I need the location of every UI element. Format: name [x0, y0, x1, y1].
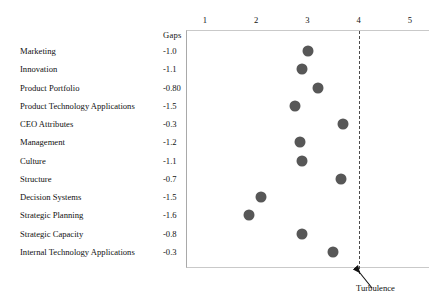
row-label: Product Portfolio	[20, 83, 79, 93]
row-label: Innovation	[20, 64, 57, 74]
row-gap-value: -1.1	[163, 156, 189, 166]
row-label: Structure	[20, 174, 52, 184]
row-label: Management	[20, 137, 65, 147]
gap-analysis-chart: Gaps 12345 Marketing-1.0Innovation-1.1Pr…	[0, 0, 430, 308]
row-gap-value: -0.3	[163, 247, 189, 257]
row-gap-value: -1.5	[163, 192, 189, 202]
data-point	[312, 82, 323, 93]
x-tick-1: 1	[203, 15, 207, 25]
row-label: Product Technology Applications	[20, 101, 135, 111]
row-label: Marketing	[20, 46, 56, 56]
x-tick-4: 4	[357, 15, 361, 25]
row-gap-value: -1.1	[163, 64, 189, 74]
row-gap-value: -1.0	[163, 46, 189, 56]
row-label: Internal Technology Applications	[20, 247, 135, 257]
gaps-column-header: Gaps	[163, 30, 181, 40]
data-point	[256, 192, 267, 203]
x-tick-5: 5	[408, 15, 412, 25]
data-point	[294, 137, 305, 148]
x-tick-3: 3	[305, 15, 309, 25]
data-point	[335, 173, 346, 184]
row-gap-value: -1.5	[163, 101, 189, 111]
x-tick-2: 2	[254, 15, 258, 25]
row-gap-value: -0.80	[163, 83, 189, 93]
data-point	[243, 210, 254, 221]
row-gap-value: -0.7	[163, 174, 189, 184]
row-gap-value: -1.2	[163, 137, 189, 147]
turbulence-threshold-line	[359, 31, 360, 274]
row-label: Culture	[20, 156, 46, 166]
row-gap-value: -0.8	[163, 229, 189, 239]
row-gap-value: -0.3	[163, 119, 189, 129]
data-point	[297, 155, 308, 166]
data-point	[297, 228, 308, 239]
data-point	[338, 119, 349, 130]
data-point	[289, 100, 300, 111]
row-gap-value: -1.6	[163, 210, 189, 220]
row-label: Strategic Capacity	[20, 229, 83, 239]
row-label: Decision Systems	[20, 192, 81, 202]
data-point	[297, 64, 308, 75]
data-point	[302, 46, 313, 57]
row-label: CEO Attributes	[20, 119, 73, 129]
turbulence-label: Turbulence	[356, 283, 395, 293]
data-point	[328, 246, 339, 257]
row-label: Strategic Planning	[20, 210, 83, 220]
